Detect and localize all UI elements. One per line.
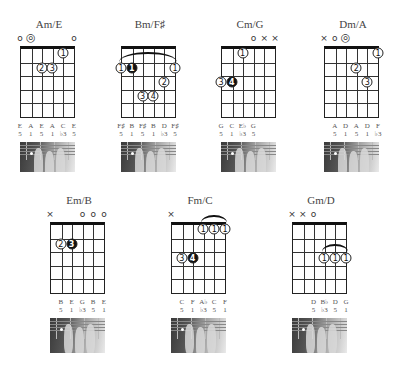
interval-degree: 1 [344, 130, 348, 138]
finger-shape [207, 324, 216, 353]
finger-shape [86, 324, 95, 353]
finger-dot: 3 [176, 253, 187, 264]
finger-shape [235, 148, 244, 172]
note-names: D5B♭♭3D5G1 [286, 298, 356, 316]
chord-title: Am/E [14, 18, 84, 30]
finger-dot: 1 [319, 253, 330, 264]
fret-line [21, 103, 74, 104]
interval-degree: 1 [230, 130, 234, 138]
barre-arc-icon [201, 215, 227, 223]
finger-dot: 2 [36, 62, 47, 73]
fret-inlay [231, 152, 234, 155]
note-name: G [251, 122, 256, 130]
hand-position-photo [324, 142, 379, 172]
fret-line [51, 266, 104, 267]
open-string-icon: ◎ [341, 33, 351, 42]
note-name: E [72, 122, 76, 130]
interval-degree: 5 [355, 130, 359, 138]
interval-degree: 5 [141, 130, 145, 138]
finger-shape [257, 148, 266, 172]
note-name: G [343, 298, 348, 306]
fret-line [325, 90, 378, 91]
string-line [314, 225, 315, 293]
interval-degree: 5 [252, 130, 256, 138]
finger-dot: 1 [237, 48, 248, 59]
finger-dot: 1 [58, 48, 69, 59]
photo-string [292, 321, 347, 322]
finger-shape [56, 148, 65, 172]
interval-degree: 1 [344, 306, 348, 314]
finger-dot: 1 [198, 224, 209, 235]
string-line [254, 49, 255, 117]
interval-degree: 1 [365, 130, 369, 138]
photo-string [50, 321, 105, 322]
open-string-icon: o [17, 34, 23, 43]
fret-line [222, 63, 275, 64]
interval-degree: 5 [119, 130, 123, 138]
finger-dot: 2 [351, 62, 362, 73]
finger-dot: 1 [209, 224, 220, 235]
mute-string-icon: × [271, 34, 279, 43]
string-line [336, 49, 337, 117]
note-name: D [333, 298, 338, 306]
chord-title: Gm/D [286, 194, 356, 206]
string-line [214, 225, 215, 293]
fret-inlay [334, 152, 337, 155]
finger-shape [135, 148, 144, 172]
finger-dot: 3 [216, 77, 227, 88]
note-name: A [332, 122, 337, 130]
fret-line [122, 103, 175, 104]
photo-string [171, 324, 226, 325]
finger-dot: 1 [341, 253, 352, 264]
note-name: F [376, 122, 380, 130]
note-name: B [58, 298, 63, 306]
note-name: B [129, 122, 134, 130]
note-name: D [343, 122, 348, 130]
note-name: E [18, 122, 22, 130]
interval-degree: 1 [130, 130, 134, 138]
string-line [357, 49, 358, 117]
string-line [204, 225, 205, 293]
finger-shape [157, 148, 166, 172]
open-string-icon: o [90, 210, 96, 219]
interval-degree: 1 [29, 130, 33, 138]
fret-line [325, 103, 378, 104]
string-line [53, 49, 54, 117]
note-name: A♭ [199, 298, 207, 306]
finger-shape [338, 148, 347, 172]
note-name: E♭ [239, 122, 247, 130]
string-line [264, 49, 265, 117]
string-line [93, 225, 94, 293]
interval-degree: 1 [191, 306, 195, 314]
finger-dot: 1 [330, 253, 341, 264]
photo-string [221, 148, 276, 149]
finger-shape [246, 151, 255, 172]
note-name: F♯ [171, 122, 178, 130]
hand-position-photo [221, 142, 276, 172]
note-names: E5A1E5A1C♭3E5 [14, 122, 84, 140]
finger-shape [75, 327, 84, 353]
note-name: E [69, 298, 73, 306]
interval-degree: 5 [333, 306, 337, 314]
note-name: C [229, 122, 234, 130]
interval-degree: 1 [70, 306, 74, 314]
fret-inlay [302, 328, 305, 331]
finger-dot: 4 [148, 91, 159, 102]
finger-dot: 3 [66, 238, 77, 249]
fret-line [293, 279, 346, 280]
interval-degree: 5 [59, 306, 63, 314]
photo-string [171, 321, 226, 322]
open-string-icon: o [251, 34, 257, 43]
chord-title: Dm/A [318, 18, 388, 30]
hand-position-photo [20, 142, 75, 172]
hand-position-photo [171, 318, 226, 353]
open-string-icon: o [311, 210, 317, 219]
finger-dot: 2 [159, 77, 170, 88]
finger-shape [317, 327, 326, 353]
finger-dot: 1 [116, 62, 127, 73]
note-name: A [50, 122, 55, 130]
open-string-icon: o [101, 210, 107, 219]
fret-line [51, 279, 104, 280]
open-string-icon: o [71, 34, 77, 43]
interval-degree: 5 [72, 130, 76, 138]
